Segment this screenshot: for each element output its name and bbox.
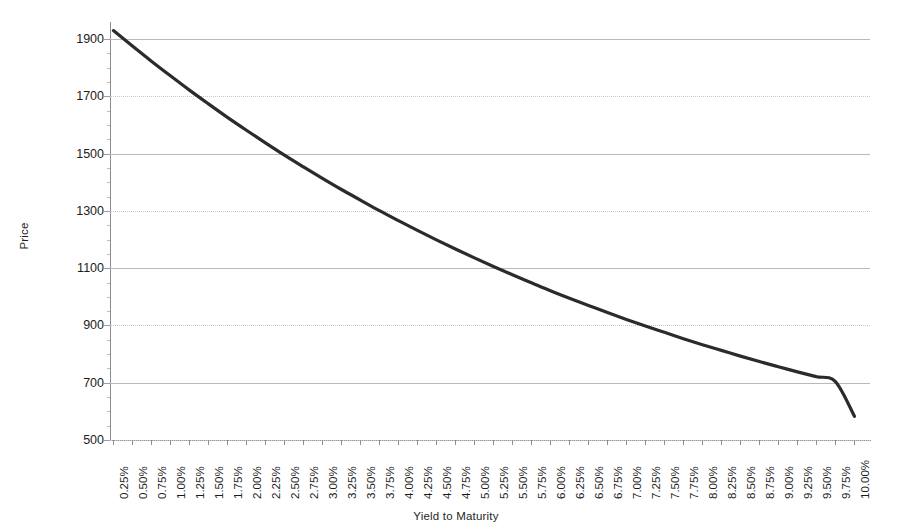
x-tick-mark xyxy=(341,440,342,445)
x-tick-label: 1.00% xyxy=(175,466,187,499)
y-minor-tick-mark xyxy=(107,168,110,169)
y-minor-tick-mark xyxy=(107,340,110,341)
x-tick-mark xyxy=(588,440,589,445)
x-tick-mark xyxy=(759,440,760,445)
y-minor-tick-mark xyxy=(107,354,110,355)
x-tick-mark xyxy=(512,440,513,445)
price-curve-path xyxy=(113,31,854,417)
x-tick-label: 2.50% xyxy=(289,466,301,499)
x-tick-mark xyxy=(303,440,304,445)
y-tick-mark xyxy=(104,211,110,212)
y-tick-label: 1700 xyxy=(58,89,104,103)
x-tick-mark xyxy=(284,440,285,445)
y-tick-label: 1500 xyxy=(58,147,104,161)
x-tick-mark xyxy=(854,440,855,445)
x-tick-mark xyxy=(740,440,741,445)
y-minor-tick-mark xyxy=(107,53,110,54)
x-tick-label: 9.00% xyxy=(783,466,795,499)
x-tick-label: 7.50% xyxy=(669,466,681,499)
y-axis-tick-labels: 50070090011001300150017001900 xyxy=(52,0,104,529)
x-tick-mark xyxy=(132,440,133,445)
x-tick-label: 0.50% xyxy=(137,466,149,499)
y-minor-tick-mark xyxy=(107,283,110,284)
x-tick-mark xyxy=(151,440,152,445)
x-tick-mark xyxy=(721,440,722,445)
x-tick-mark xyxy=(417,440,418,445)
y-minor-tick-mark xyxy=(107,139,110,140)
x-tick-mark xyxy=(322,440,323,445)
x-tick-label: 6.25% xyxy=(574,466,586,499)
y-tick-mark xyxy=(104,154,110,155)
x-tick-mark xyxy=(816,440,817,445)
x-tick-mark xyxy=(493,440,494,445)
x-tick-label: 2.00% xyxy=(251,466,263,499)
x-tick-label: 8.75% xyxy=(764,466,776,499)
x-tick-mark xyxy=(835,440,836,445)
x-tick-mark xyxy=(645,440,646,445)
y-minor-tick-mark xyxy=(107,225,110,226)
y-minor-tick-mark xyxy=(107,68,110,69)
y-tick-label: 1300 xyxy=(58,204,104,218)
y-tick-mark xyxy=(104,325,110,326)
x-tick-label: 9.75% xyxy=(840,466,852,499)
y-tick-label: 700 xyxy=(58,376,104,390)
y-tick-mark xyxy=(104,96,110,97)
y-tick-mark xyxy=(104,39,110,40)
x-tick-label: 9.50% xyxy=(821,466,833,499)
x-tick-label: 8.25% xyxy=(726,466,738,499)
price-yield-chart: Price 50070090011001300150017001900 0.25… xyxy=(0,0,912,529)
x-axis-title: Yield to Maturity xyxy=(0,510,912,522)
y-minor-tick-mark xyxy=(107,297,110,298)
y-minor-tick-mark xyxy=(107,125,110,126)
x-tick-label: 1.75% xyxy=(232,466,244,499)
x-tick-mark xyxy=(227,440,228,445)
x-tick-mark xyxy=(208,440,209,445)
x-tick-mark xyxy=(569,440,570,445)
x-tick-mark xyxy=(702,440,703,445)
x-tick-label: 7.25% xyxy=(650,466,662,499)
x-tick-label: 7.00% xyxy=(631,466,643,499)
y-minor-tick-mark xyxy=(107,426,110,427)
x-tick-mark xyxy=(360,440,361,445)
y-minor-tick-mark xyxy=(107,254,110,255)
y-minor-tick-mark xyxy=(107,111,110,112)
x-tick-label: 6.75% xyxy=(612,466,624,499)
x-tick-mark xyxy=(113,440,114,445)
y-minor-tick-mark xyxy=(107,397,110,398)
x-tick-label: 3.75% xyxy=(384,466,396,499)
y-axis-title: Price xyxy=(18,196,30,276)
x-tick-label: 1.25% xyxy=(194,466,206,499)
y-tick-mark xyxy=(104,440,110,441)
y-tick-mark xyxy=(104,268,110,269)
x-tick-mark xyxy=(170,440,171,445)
x-tick-label: 2.75% xyxy=(308,466,320,499)
x-tick-label: 0.75% xyxy=(156,466,168,499)
x-tick-label: 3.50% xyxy=(365,466,377,499)
x-tick-mark xyxy=(455,440,456,445)
y-tick-label: 500 xyxy=(58,433,104,447)
x-tick-mark xyxy=(436,440,437,445)
y-minor-tick-mark xyxy=(107,82,110,83)
x-axis-tick-labels: 0.25%0.50%0.75%1.00%1.25%1.50%1.75%2.00%… xyxy=(110,447,872,503)
x-tick-mark xyxy=(265,440,266,445)
x-tick-label: 8.00% xyxy=(707,466,719,499)
x-tick-mark xyxy=(550,440,551,445)
x-tick-mark xyxy=(778,440,779,445)
x-tick-label: 3.00% xyxy=(327,466,339,499)
x-tick-mark xyxy=(246,440,247,445)
y-minor-tick-mark xyxy=(107,240,110,241)
x-tick-mark xyxy=(797,440,798,445)
x-tick-label: 5.00% xyxy=(479,466,491,499)
x-tick-label: 2.25% xyxy=(270,466,282,499)
price-curve xyxy=(110,22,870,440)
x-tick-label: 10.00% xyxy=(859,460,871,499)
x-tick-mark xyxy=(531,440,532,445)
x-tick-label: 4.50% xyxy=(441,466,453,499)
x-tick-mark xyxy=(626,440,627,445)
x-tick-label: 0.25% xyxy=(118,466,130,499)
y-minor-tick-mark xyxy=(107,368,110,369)
x-tick-label: 3.25% xyxy=(346,466,358,499)
x-tick-label: 4.00% xyxy=(403,466,415,499)
x-tick-label: 6.50% xyxy=(593,466,605,499)
x-tick-label: 7.75% xyxy=(688,466,700,499)
